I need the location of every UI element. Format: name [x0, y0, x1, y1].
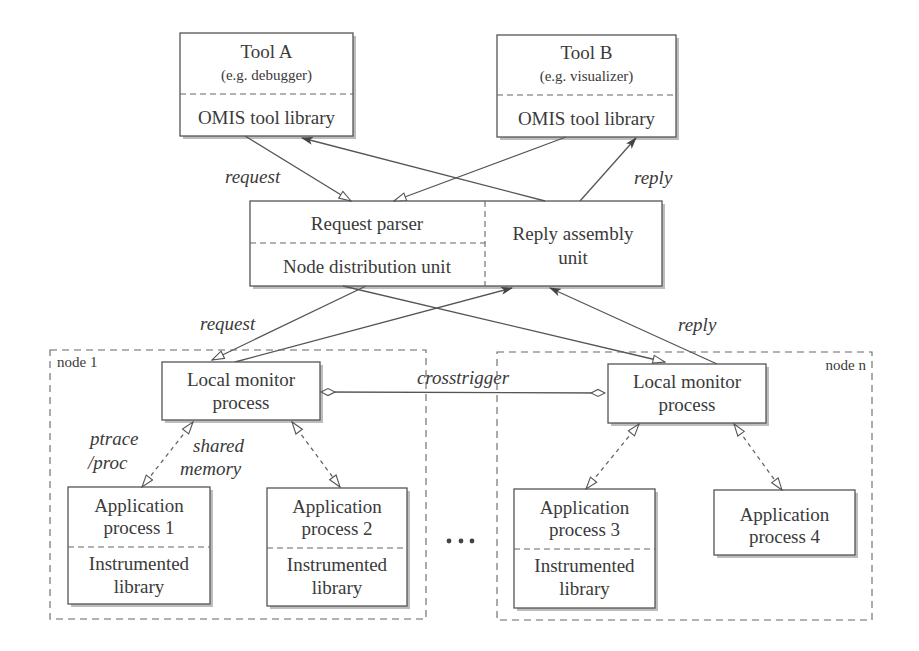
reply-assembly-label-line2: unit [558, 247, 588, 268]
request-parser-label: Request parser [311, 213, 424, 234]
omis-architecture-diagram: Tool A (e.g. debugger) OMIS tool library… [0, 0, 919, 651]
app-process-4-box: Application process 4 [714, 490, 858, 558]
tool-b-title: Tool B [561, 42, 613, 63]
node-n-label: node n [826, 357, 867, 373]
label-ptrace-line2: /proc [87, 452, 128, 473]
ellipsis-dot [447, 539, 452, 544]
tool-b-library: OMIS tool library [518, 108, 656, 129]
app-process-1-box: Application process 1 Instrumented libra… [68, 487, 213, 607]
edge-request-to-monitor-n [343, 286, 665, 362]
app-process-3-lib2: library [559, 578, 610, 599]
app-process-3-line1: Application [540, 497, 630, 518]
tool-b-box: Tool B (e.g. visualizer) OMIS tool libra… [497, 35, 679, 140]
node-1-label: node 1 [57, 354, 97, 370]
app-process-3-line2: process 3 [549, 519, 620, 540]
local-monitor-n-box: Local monitor process [608, 364, 769, 426]
label-request-bottom: request [200, 313, 256, 334]
local-monitor-n-line1: Local monitor [633, 371, 742, 392]
app-process-1-lib1: Instrumented [89, 553, 190, 574]
edge-reply-to-tool-b [580, 138, 636, 201]
app-process-3-lib1: Instrumented [534, 555, 635, 576]
local-monitor-1-line2: process [213, 392, 270, 413]
edge-monitor-n-to-app-3 [586, 424, 639, 489]
tool-a-library: OMIS tool library [198, 107, 336, 128]
ellipsis-more-nodes [447, 539, 475, 544]
app-process-2-line1: Application [292, 496, 382, 517]
edge-monitor-1-to-app-2 [292, 422, 340, 487]
local-monitor-1-line1: Local monitor [187, 369, 296, 390]
app-process-4-line2: process 4 [749, 526, 821, 547]
app-process-1-lib2: library [114, 576, 165, 597]
app-process-2-box: Application process 2 Instrumented libra… [267, 488, 410, 609]
node-distribution-label: Node distribution unit [283, 256, 452, 277]
label-reply-top: reply [634, 167, 673, 188]
node-1-region: node 1 Local monitor process Application… [50, 350, 426, 619]
tool-b-subtitle: (e.g. visualizer) [540, 68, 634, 85]
label-reply-bottom: reply [678, 314, 717, 335]
app-process-2-lib2: library [312, 577, 363, 598]
app-process-3-box: Application process 3 Instrumented libra… [514, 489, 658, 611]
central-box: Request parser Node distribution unit Re… [250, 201, 665, 289]
reply-assembly-label-line1: Reply assembly [513, 223, 634, 244]
app-process-2-lib1: Instrumented [287, 554, 388, 575]
ellipsis-dot [470, 539, 475, 544]
edge-reply-to-tool-a [302, 138, 545, 201]
tool-a-title: Tool A [241, 41, 293, 62]
label-request-top: request [225, 166, 281, 187]
local-monitor-n-line2: process [659, 394, 716, 415]
tool-a-subtitle: (e.g. debugger) [221, 67, 312, 84]
label-ptrace-line1: ptrace [88, 428, 139, 449]
app-process-2-line2: process 2 [301, 518, 372, 539]
local-monitor-1-box: Local monitor process [162, 362, 323, 423]
edge-crosstrigger [321, 392, 605, 393]
label-shared-line2: memory [180, 458, 242, 479]
tool-a-box: Tool A (e.g. debugger) OMIS tool library [180, 33, 356, 139]
edge-monitor-n-to-app-4 [734, 424, 782, 490]
label-shared-line1: shared [193, 435, 245, 456]
ellipsis-dot [459, 539, 464, 544]
edge-reply-from-monitor-1 [235, 288, 512, 362]
app-process-4-line1: Application [740, 504, 830, 525]
app-process-1-line2: process 1 [103, 517, 174, 538]
app-process-1-line1: Application [94, 495, 184, 516]
label-crosstrigger: crosstrigger [417, 367, 510, 388]
